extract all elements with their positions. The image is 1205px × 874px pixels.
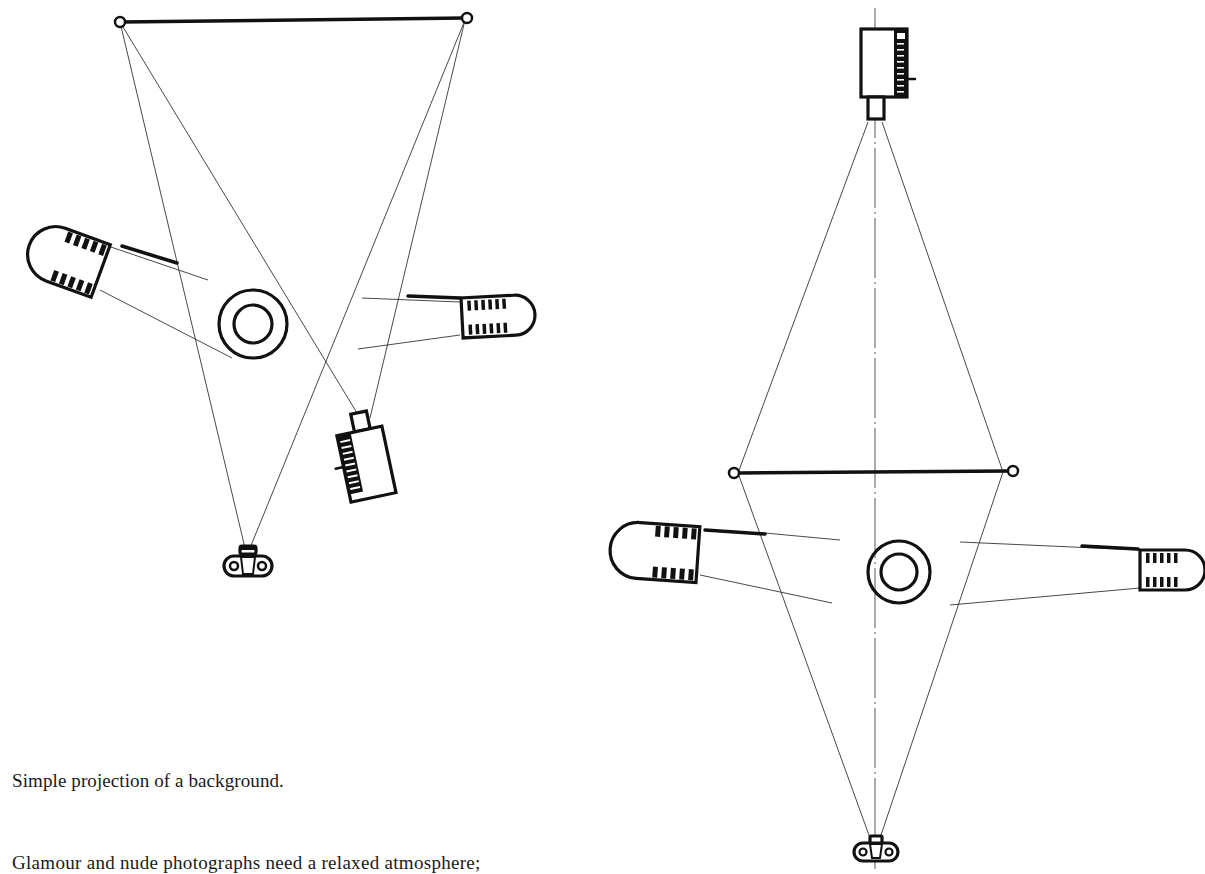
barn-door-icon [408,296,460,298]
background-screen-icon [115,13,472,27]
body-paragraph: Glamour and nude photographs need a rela… [12,852,481,874]
background-screen-icon [729,466,1018,478]
spotlight-icon [20,219,111,298]
subject-icon [219,290,287,358]
spotlight-icon [1140,550,1205,590]
spotlight-icon [461,294,536,338]
diagram-left [20,13,536,576]
sight-lines-left [100,20,465,548]
barn-door-icon [1082,546,1138,549]
barn-door-icon [705,530,765,534]
sight-lines-right [700,122,1140,838]
subject-icon [868,541,930,603]
camera-icon [224,546,272,576]
projector-icon [861,29,915,119]
spotlight-icon [608,521,700,583]
camera-icon [854,836,898,861]
figure-caption: Simple projection of a background. [12,770,284,792]
diagram-right [608,8,1205,869]
projector-icon [325,409,396,504]
